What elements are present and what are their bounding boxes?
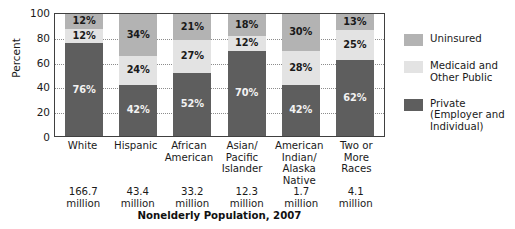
x-axis-labels: WhiteHispanicAfricanAmericanAsian/Pacifi… <box>54 140 385 186</box>
bar-segment-uninsured[interactable]: 12% <box>65 14 103 29</box>
bar-segment-uninsured[interactable]: 18% <box>228 14 266 36</box>
legend-label-line: Uninsured <box>430 33 482 45</box>
population-value: 33.2million <box>166 186 218 209</box>
bar-series-group: 12%12%76%34%24%42%21%27%52%18%12%70%30%2… <box>55 14 384 136</box>
y-tick-40: 40 <box>24 82 50 93</box>
x-axis-label-line: Alaska Native <box>269 163 329 186</box>
population-value: 43.4million <box>112 186 164 209</box>
population-value: 166.7million <box>57 186 109 209</box>
population-unit: million <box>112 198 164 210</box>
legend-swatch-uninsured <box>404 34 423 46</box>
y-tick-60: 60 <box>24 57 50 68</box>
chart-figure: Percent 100806040200 12%12%76%34%24%42%2… <box>0 0 515 229</box>
population-annotations: 166.7million43.4million33.2million12.3mi… <box>54 186 385 209</box>
y-tick-100: 100 <box>24 8 50 19</box>
bar-segment-medicaid[interactable]: 28% <box>282 51 320 85</box>
x-axis-label-line: More <box>330 152 382 164</box>
legend-label-line: (Employer and <box>430 109 505 121</box>
bar-segment-label: 28% <box>289 63 312 73</box>
y-tick-0: 0 <box>24 132 50 143</box>
population-value: 4.1million <box>330 186 382 209</box>
bar-segment-label: 18% <box>235 20 258 30</box>
x-axis-label: Asian/PacificIslander <box>216 140 268 186</box>
y-tick-80: 80 <box>24 33 50 44</box>
legend-label-line: Medicaid and <box>430 60 498 72</box>
x-axis-label-line: Hispanic <box>110 140 162 152</box>
bar-segment-label: 25% <box>343 40 366 50</box>
bar-segment-medicaid[interactable]: 12% <box>228 36 266 51</box>
legend-label: Medicaid andOther Public <box>430 60 498 84</box>
bar-segment-label: 12% <box>73 31 96 41</box>
x-axis-label-line: Pacific <box>216 152 268 164</box>
x-axis-label-line: American <box>163 152 215 164</box>
legend-label-line: Other Public <box>430 72 498 84</box>
plot-area: 12%12%76%34%24%42%21%27%52%18%12%70%30%2… <box>54 13 385 137</box>
legend-label: Private(Employer andIndividual) <box>430 98 505 133</box>
legend-label-line: Individual) <box>430 121 505 133</box>
bar-segment-label: 52% <box>181 99 204 109</box>
bar-segment-label: 34% <box>127 30 150 40</box>
bar-column[interactable]: 21%27%52% <box>173 14 211 136</box>
x-axis-label-line: Indian/ <box>269 152 329 164</box>
bar-segment-label: 27% <box>181 51 204 61</box>
legend-label: Uninsured <box>430 33 482 45</box>
bar-segment-label: 76% <box>73 85 96 95</box>
x-axis-label-line: Asian/ <box>216 140 268 152</box>
population-number: 166.7 <box>57 186 109 198</box>
population-number: 33.2 <box>166 186 218 198</box>
x-axis-label-line: Two or <box>330 140 382 152</box>
y-axis-label: Percent <box>10 18 22 98</box>
legend-item-private[interactable]: Private(Employer andIndividual) <box>404 98 514 133</box>
bar-segment-label: 12% <box>73 16 96 26</box>
bar-column[interactable]: 18%12%70% <box>228 14 266 136</box>
bar-segment-private[interactable]: 70% <box>228 51 266 136</box>
bar-segment-private[interactable]: 42% <box>282 85 320 136</box>
bar-column[interactable]: 12%12%76% <box>65 14 103 136</box>
x-axis-label: Two orMoreRaces <box>330 140 382 186</box>
population-unit: million <box>166 198 218 210</box>
x-axis-label: AmericanIndian/Alaska Native <box>269 140 329 186</box>
y-axis-ticks: 100806040200 <box>24 0 50 145</box>
x-axis-title: Nonelderly Population, 2007 <box>54 210 385 221</box>
population-number: 1.7 <box>275 186 327 198</box>
legend-item-medicaid[interactable]: Medicaid andOther Public <box>404 60 514 84</box>
bar-column[interactable]: 13%25%62% <box>336 14 374 136</box>
population-value: 1.7million <box>275 186 327 209</box>
population-unit: million <box>221 198 273 210</box>
bar-segment-uninsured[interactable]: 13% <box>336 14 374 30</box>
population-unit: million <box>330 198 382 210</box>
bar-segment-uninsured[interactable]: 30% <box>282 14 320 51</box>
bar-segment-label: 30% <box>289 27 312 37</box>
bar-segment-medicaid[interactable]: 25% <box>336 30 374 61</box>
bar-segment-medicaid[interactable]: 27% <box>173 40 211 73</box>
x-axis-label-line: Islander <box>216 163 268 175</box>
bar-segment-label: 12% <box>235 38 258 48</box>
population-number: 12.3 <box>221 186 273 198</box>
bar-segment-label: 21% <box>181 22 204 32</box>
bar-segment-medicaid[interactable]: 24% <box>119 56 157 85</box>
population-number: 4.1 <box>330 186 382 198</box>
population-unit: million <box>57 198 109 210</box>
bar-segment-uninsured[interactable]: 34% <box>119 14 157 55</box>
legend-swatch-medicaid <box>404 61 423 73</box>
y-tick-20: 20 <box>24 107 50 118</box>
x-axis-label-line: African <box>163 140 215 152</box>
bar-column[interactable]: 30%28%42% <box>282 14 320 136</box>
x-axis-label: AfricanAmerican <box>163 140 215 186</box>
population-unit: million <box>275 198 327 210</box>
legend-item-uninsured[interactable]: Uninsured <box>404 33 514 46</box>
bar-segment-private[interactable]: 52% <box>173 73 211 136</box>
bar-segment-label: 62% <box>343 93 366 103</box>
bar-column[interactable]: 34%24%42% <box>119 14 157 136</box>
bar-segment-medicaid[interactable]: 12% <box>65 29 103 44</box>
bar-segment-uninsured[interactable]: 21% <box>173 14 211 40</box>
bar-segment-label: 13% <box>343 17 366 27</box>
legend-label-line: Private <box>430 98 505 110</box>
bar-segment-label: 70% <box>235 88 258 98</box>
bar-segment-private[interactable]: 42% <box>119 85 157 136</box>
chart-legend: UninsuredMedicaid andOther PublicPrivate… <box>404 33 514 147</box>
x-axis-label: Hispanic <box>110 140 162 186</box>
bar-segment-private[interactable]: 76% <box>65 43 103 136</box>
bar-segment-label: 42% <box>289 105 312 115</box>
bar-segment-private[interactable]: 62% <box>336 60 374 136</box>
